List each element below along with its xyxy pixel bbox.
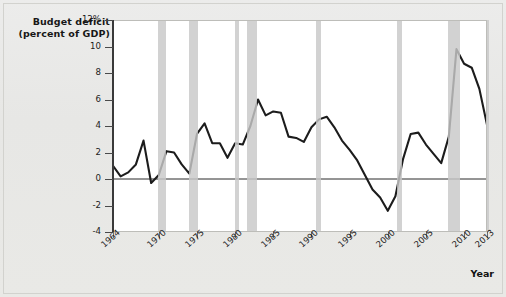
y-axis-tick-label: 12% (0, 14, 101, 24)
recession-band (158, 20, 166, 232)
recession-band (316, 20, 321, 232)
budget-deficit-line (113, 49, 487, 211)
plot-area (113, 20, 487, 232)
y-axis-tick-label: 8 (0, 67, 101, 77)
recession-band (397, 20, 402, 232)
recession-band (486, 20, 488, 232)
y-axis-tick (105, 153, 113, 154)
y-axis-tick-label: -2 (0, 200, 101, 210)
recession-band (247, 20, 258, 232)
y-axis-tick (105, 100, 113, 101)
y-axis-tick-label: 2 (0, 147, 101, 157)
y-axis-tick (105, 20, 113, 21)
chart-canvas (113, 20, 487, 232)
y-axis-tick-label: 4 (0, 120, 101, 130)
recession-band (189, 20, 199, 232)
y-axis-tick-label: 0 (0, 173, 101, 183)
x-axis-tick-label: 1964 (99, 227, 122, 249)
y-axis-tick (105, 179, 113, 180)
y-axis-tick-label: 6 (0, 94, 101, 104)
recession-band (235, 20, 239, 232)
y-axis-tick (105, 73, 113, 74)
y-axis-tick-label: -4 (0, 226, 101, 236)
chart-figure: Budget deficit (percent of GDP) 12%10864… (0, 0, 506, 297)
y-axis-tick (105, 47, 113, 48)
y-axis-tick-label: 10 (0, 41, 101, 51)
y-axis-tick (105, 126, 113, 127)
x-axis-title: Year (470, 268, 494, 279)
y-axis-tick (105, 206, 113, 207)
recession-band (448, 20, 460, 232)
y-axis-title-line2: (percent of GDP) (2, 28, 110, 40)
